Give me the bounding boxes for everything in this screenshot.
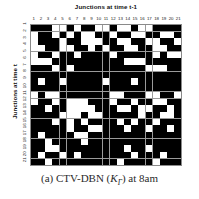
matrix-cell — [174, 159, 181, 165]
matrix-cell — [38, 92, 45, 98]
x-axis-title: Junctions at time t-1 — [30, 3, 182, 10]
figure-caption: (a) CTV-DBN (KΓ) at 8am — [0, 172, 199, 187]
matrix-cell — [67, 112, 74, 118]
matrix-cell — [67, 119, 74, 125]
matrix-cell — [153, 139, 160, 145]
matrix-cell — [52, 92, 59, 98]
matrix-cell — [131, 125, 138, 131]
matrix-cell — [160, 132, 167, 138]
x-tick-2: 2 — [37, 15, 44, 23]
matrix-cell — [138, 25, 145, 31]
matrix-cell — [45, 25, 52, 31]
matrix-cell — [88, 159, 95, 165]
matrix-cell — [124, 45, 131, 51]
matrix-cell — [160, 25, 167, 31]
matrix-cell — [81, 38, 88, 44]
matrix-cell — [124, 52, 131, 58]
matrix-cell — [95, 72, 102, 78]
matrix-cell — [117, 58, 124, 64]
matrix-cell — [45, 45, 52, 51]
matrix-cell — [103, 125, 110, 131]
matrix-cell — [174, 92, 181, 98]
x-axis-tick-labels: 123456789101112131415161718192021 — [30, 15, 182, 23]
matrix-cell — [38, 58, 45, 64]
matrix-cell — [138, 112, 145, 118]
matrix-cell — [81, 65, 88, 71]
matrix-cell — [81, 92, 88, 98]
matrix-cell — [160, 58, 167, 64]
matrix-cell — [38, 99, 45, 105]
matrix-cell — [67, 85, 74, 91]
matrix-cell — [52, 132, 59, 138]
matrix-cell — [60, 65, 67, 71]
adjacency-matrix-grid — [30, 24, 182, 166]
matrix-cell — [60, 152, 67, 158]
matrix-cell — [52, 159, 59, 165]
matrix-cell — [160, 32, 167, 38]
matrix-cell — [160, 78, 167, 84]
matrix-cell — [103, 152, 110, 158]
x-tick-1: 1 — [30, 15, 37, 23]
matrix-cell — [153, 52, 160, 58]
matrix-cell — [146, 72, 153, 78]
matrix-cell — [95, 58, 102, 64]
x-tick-4: 4 — [52, 15, 59, 23]
matrix-cell — [110, 45, 117, 51]
matrix-cell — [38, 65, 45, 71]
matrix-cell — [67, 105, 74, 111]
y-tick-21: 21 — [21, 158, 28, 168]
matrix-cell — [117, 152, 124, 158]
matrix-cell — [67, 65, 74, 71]
matrix-cell — [88, 52, 95, 58]
matrix-cell — [103, 139, 110, 145]
matrix-cell — [146, 65, 153, 71]
matrix-cell — [31, 25, 38, 31]
x-tick-7: 7 — [73, 15, 80, 23]
matrix-cell — [60, 145, 67, 151]
x-tick-10: 10 — [95, 15, 102, 23]
matrix-cell — [45, 65, 52, 71]
matrix-cell — [31, 159, 38, 165]
matrix-cell — [138, 152, 145, 158]
matrix-cell — [88, 92, 95, 98]
matrix-cell — [117, 125, 124, 131]
matrix-cell — [60, 139, 67, 145]
matrix-cell — [110, 145, 117, 151]
matrix-cell — [67, 139, 74, 145]
matrix-cell — [110, 99, 117, 105]
matrix-cell — [138, 105, 145, 111]
matrix-cell — [131, 65, 138, 71]
matrix-cell — [103, 159, 110, 165]
matrix-cell — [167, 32, 174, 38]
matrix-cell — [167, 92, 174, 98]
matrix-cell — [31, 32, 38, 38]
matrix-cell — [160, 159, 167, 165]
x-tick-18: 18 — [153, 15, 160, 23]
matrix-cell — [110, 25, 117, 31]
matrix-cell — [131, 58, 138, 64]
matrix-cell — [138, 58, 145, 64]
matrix-cell — [95, 112, 102, 118]
matrix-cell — [167, 52, 174, 58]
matrix-cell — [67, 58, 74, 64]
matrix-cell — [95, 139, 102, 145]
matrix-cell — [60, 85, 67, 91]
matrix-cell — [88, 132, 95, 138]
matrix-cell — [67, 99, 74, 105]
matrix-cell — [138, 65, 145, 71]
matrix-cell — [38, 152, 45, 158]
matrix-cell — [160, 99, 167, 105]
matrix-cell — [81, 45, 88, 51]
matrix-cell — [31, 52, 38, 58]
matrix-cell — [167, 78, 174, 84]
matrix-cell — [117, 38, 124, 44]
matrix-cell — [38, 132, 45, 138]
matrix-cell — [52, 105, 59, 111]
matrix-cell — [117, 65, 124, 71]
matrix-cell — [95, 25, 102, 31]
caption-prefix: (a) CTV-DBN ( — [41, 172, 110, 184]
x-tick-20: 20 — [167, 15, 174, 23]
matrix-cell — [146, 92, 153, 98]
matrix-cell — [117, 45, 124, 51]
matrix-cell — [45, 32, 52, 38]
